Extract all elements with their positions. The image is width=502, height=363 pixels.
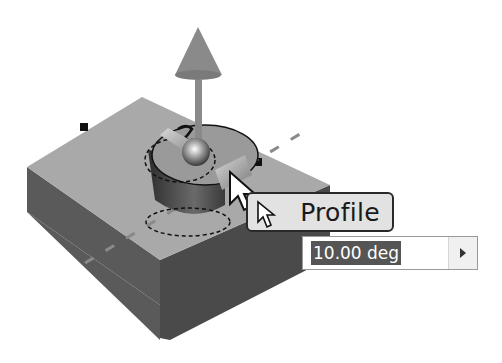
profile-label-text: Profile — [300, 198, 380, 227]
center-sphere-handle[interactable] — [182, 138, 210, 166]
angle-value-input[interactable]: 10.00 deg — [302, 236, 478, 270]
3d-viewport[interactable]: Profile 10.00 deg — [0, 0, 502, 363]
value-dropdown-button[interactable] — [448, 237, 477, 269]
right-arrow-icon — [460, 248, 466, 258]
angle-value-text[interactable]: 10.00 deg — [311, 241, 401, 265]
corner-handle[interactable] — [80, 123, 88, 131]
profile-label[interactable]: Profile — [246, 192, 394, 232]
small-cursor-icon — [256, 200, 278, 230]
